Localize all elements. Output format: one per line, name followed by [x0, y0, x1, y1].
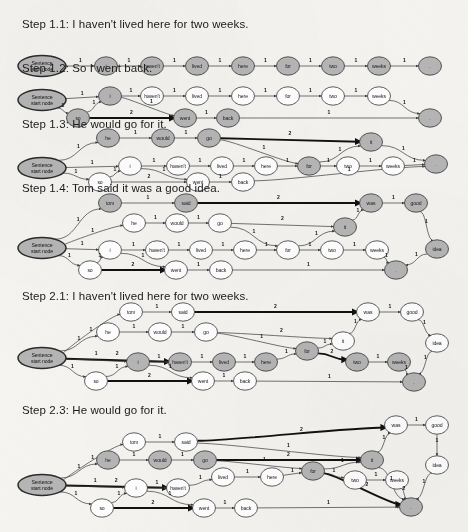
word-node[interactable]: lived — [211, 157, 234, 175]
word-node[interactable]: weeks — [382, 157, 405, 175]
word-node[interactable]: tom — [123, 433, 146, 451]
word-node[interactable]: two — [321, 241, 344, 259]
word-node[interactable]: was — [360, 194, 383, 212]
word-node[interactable]: would — [149, 323, 172, 341]
edge-weight-label: 1 — [287, 442, 290, 448]
word-node[interactable]: haven't — [169, 353, 192, 371]
edge-weight-label: 1 — [392, 194, 395, 200]
graph-edge — [405, 370, 408, 374]
word-node[interactable]: said — [172, 303, 195, 321]
word-node[interactable]: here — [232, 87, 255, 105]
word-node[interactable]: so — [91, 499, 114, 517]
word-node[interactable]: go — [194, 451, 217, 469]
start-node[interactable]: Sentencestart node — [18, 158, 66, 179]
graph-edge — [110, 171, 121, 177]
word-node[interactable]: here — [261, 468, 284, 486]
word-node[interactable]: . — [425, 155, 448, 173]
word-node[interactable]: said — [175, 194, 198, 212]
word-node[interactable]: for — [277, 87, 300, 105]
word-node[interactable]: went — [192, 372, 215, 390]
word-node[interactable]: so — [85, 372, 108, 390]
word-node[interactable]: it — [360, 133, 383, 151]
word-node[interactable]: for — [296, 342, 319, 360]
node-layer: Sentencestart nodetomsaidwasgoodhewouldg… — [18, 194, 449, 279]
word-node[interactable]: good — [426, 416, 449, 434]
start-node[interactable]: Sentencestart node — [18, 90, 66, 111]
word-node[interactable]: . — [385, 261, 408, 279]
word-node[interactable]: for — [302, 462, 325, 480]
edge-weight-label: 1 — [118, 490, 121, 496]
start-node[interactable]: Sentencestart node — [18, 238, 66, 259]
word-node[interactable]: back — [210, 261, 233, 279]
word-node-label: he — [131, 220, 137, 226]
word-node[interactable]: went — [165, 261, 188, 279]
word-node[interactable]: here — [255, 353, 278, 371]
word-node[interactable]: . — [400, 498, 423, 516]
word-node[interactable]: back — [234, 372, 257, 390]
word-node[interactable]: go — [209, 214, 232, 232]
word-node[interactable]: idea — [426, 240, 449, 258]
edge-weight-label: 1 — [147, 194, 150, 200]
word-node[interactable]: went — [193, 499, 216, 517]
word-node-label: went — [171, 267, 182, 273]
word-node[interactable]: lived — [213, 353, 236, 371]
word-node[interactable]: two — [322, 87, 345, 105]
word-node[interactable]: it — [361, 451, 384, 469]
word-node[interactable]: for — [298, 157, 321, 175]
word-node[interactable]: lived — [212, 468, 235, 486]
word-node[interactable]: it — [332, 332, 355, 350]
start-node[interactable]: Sentencestart node — [18, 475, 66, 496]
word-node[interactable]: haven't — [146, 241, 169, 259]
word-node[interactable]: go — [198, 129, 221, 147]
word-node[interactable]: lived — [190, 241, 213, 259]
word-node[interactable]: i — [127, 353, 150, 371]
word-node[interactable]: haven't — [167, 157, 190, 175]
word-node[interactable]: back — [232, 173, 255, 191]
word-node[interactable]: said — [175, 433, 198, 451]
edge-weight-label: 2 — [116, 350, 119, 356]
word-node[interactable]: two — [344, 471, 367, 489]
word-node[interactable]: for — [277, 241, 300, 259]
word-node[interactable]: would — [152, 129, 175, 147]
sentence-graph: Sentencestart nodehewouldgoitihaven'tliv… — [0, 124, 468, 186]
word-node[interactable]: was — [385, 416, 408, 434]
word-node[interactable]: go — [195, 323, 218, 341]
word-node[interactable]: idea — [426, 334, 449, 352]
word-node-label: would — [157, 135, 170, 141]
word-node[interactable]: he — [97, 323, 120, 341]
word-node[interactable]: he — [97, 129, 120, 147]
graph-edge — [217, 333, 296, 348]
word-node[interactable]: good — [405, 194, 428, 212]
word-node[interactable]: lived — [186, 87, 209, 105]
word-node[interactable]: would — [149, 451, 172, 469]
edge-weight-label: 1 — [197, 261, 200, 267]
word-node[interactable]: good — [401, 303, 424, 321]
word-node[interactable]: back — [235, 499, 258, 517]
edge-weight-label: 1 — [265, 241, 268, 247]
word-node[interactable]: tom — [99, 194, 122, 212]
word-node[interactable]: it — [334, 218, 357, 236]
word-node-label: . — [413, 379, 414, 385]
word-node[interactable]: i — [99, 87, 122, 105]
start-node[interactable]: Sentencestart node — [18, 348, 66, 369]
word-node-label: back — [240, 378, 251, 384]
word-node[interactable]: would — [166, 214, 189, 232]
word-node[interactable]: i — [99, 241, 122, 259]
word-node[interactable]: two — [346, 353, 369, 371]
word-node[interactable]: he — [123, 214, 146, 232]
word-node-label: idea — [432, 340, 441, 346]
word-node[interactable]: he — [97, 451, 120, 469]
edge-weight-label: 1 — [243, 157, 246, 163]
word-node[interactable]: weeks — [368, 87, 391, 105]
word-node[interactable]: so — [79, 261, 102, 279]
word-node[interactable]: . — [403, 373, 426, 391]
word-node[interactable]: here — [234, 241, 257, 259]
word-node[interactable]: tom — [120, 303, 143, 321]
word-node[interactable]: idea — [426, 456, 449, 474]
word-node[interactable]: was — [357, 303, 380, 321]
word-node[interactable]: i — [125, 479, 148, 497]
graph-edge — [318, 353, 346, 359]
edge-weight-label: 1 — [253, 228, 256, 234]
word-node[interactable]: i — [119, 157, 142, 175]
word-node[interactable]: here — [255, 157, 278, 175]
